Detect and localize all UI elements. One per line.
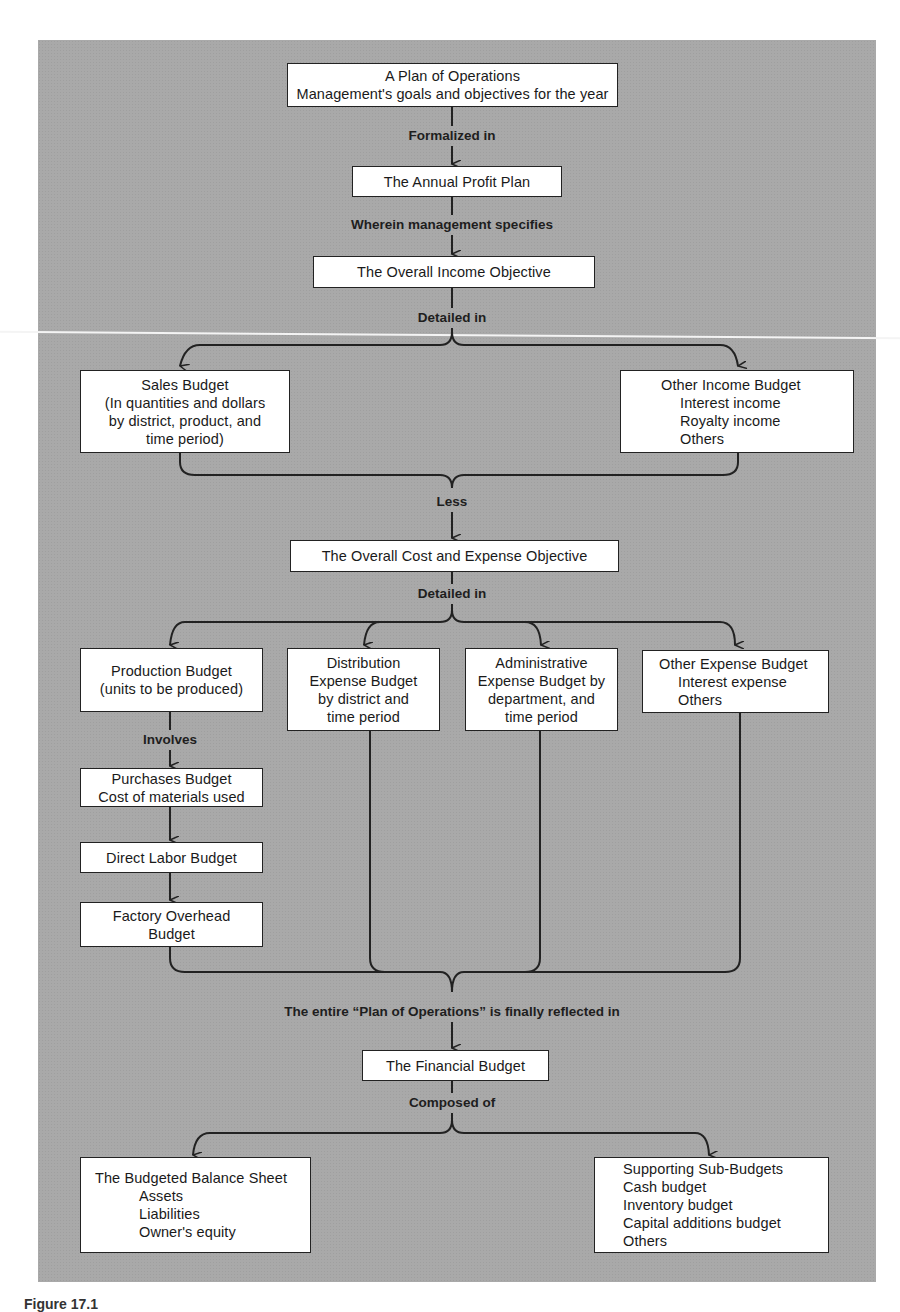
node-other-expense-budget: Other Expense Budget Interest expense Ot… [642, 650, 829, 713]
node-title: Supporting Sub-Budgets [623, 1160, 822, 1178]
node-line: (In quantities and dollars [87, 394, 283, 412]
node-production-budget: Production Budget (units to be produced) [80, 648, 263, 712]
node-direct-labor-budget: Direct Labor Budget [80, 842, 263, 873]
node-supporting-sub-budgets: Supporting Sub-Budgets Cash budget Inven… [594, 1157, 829, 1253]
node-overall-cost-expense-objective: The Overall Cost and Expense Objective [290, 540, 619, 572]
node-line: Others [661, 430, 847, 448]
node-title: The Budgeted Balance Sheet [95, 1169, 304, 1187]
node-line: by district and [294, 690, 433, 708]
node-line: time period [472, 708, 611, 726]
edge-label-composed-of: Composed of [409, 1095, 495, 1110]
node-administrative-expense-budget: Administrative Expense Budget by departm… [465, 648, 618, 731]
node-line: time period [294, 708, 433, 726]
node-title: Administrative [472, 654, 611, 672]
node-budgeted-balance-sheet: The Budgeted Balance Sheet Assets Liabil… [80, 1157, 311, 1253]
edge-label-formalized-in: Formalized in [408, 128, 495, 143]
node-line: Interest expense [659, 673, 822, 691]
node-title: Purchases Budget [87, 770, 256, 788]
node-line: Owner's equity [95, 1223, 304, 1241]
node-line: Expense Budget by [472, 672, 611, 690]
node-line: (units to be produced) [87, 680, 256, 698]
node-title: A Plan of Operations [294, 67, 611, 85]
node-line: Others [659, 691, 822, 709]
node-title: Factory Overhead [87, 907, 256, 925]
node-title: Sales Budget [87, 376, 283, 394]
node-subtitle: Management's goals and objectives for th… [294, 85, 611, 103]
node-title: The Annual Profit Plan [359, 173, 555, 191]
node-line: department, and [472, 690, 611, 708]
node-line: Royalty income [661, 412, 847, 430]
node-purchases-budget: Purchases Budget Cost of materials used [80, 768, 263, 807]
edge-label-detailed-in-2: Detailed in [418, 586, 486, 601]
edge-label-wherein: Wherein management specifies [351, 217, 553, 232]
node-line: Inventory budget [623, 1196, 822, 1214]
node-title: Production Budget [87, 662, 256, 680]
node-line: Interest income [661, 394, 847, 412]
node-title: The Overall Cost and Expense Objective [297, 547, 612, 565]
node-line: Budget [87, 925, 256, 943]
node-plan-of-operations: A Plan of Operations Management's goals … [287, 63, 618, 107]
node-line: Cash budget [623, 1178, 822, 1196]
node-financial-budget: The Financial Budget [362, 1050, 549, 1081]
node-other-income-budget: Other Income Budget Interest income Roya… [620, 370, 854, 453]
node-line: Liabilities [95, 1205, 304, 1223]
node-title: The Overall Income Objective [320, 263, 588, 281]
node-factory-overhead-budget: Factory Overhead Budget [80, 902, 263, 947]
node-line: Expense Budget [294, 672, 433, 690]
edge-label-less: Less [437, 494, 468, 509]
node-title: Other Expense Budget [659, 655, 822, 673]
node-title: Direct Labor Budget [87, 849, 256, 867]
edge-label-involves: Involves [143, 732, 197, 747]
node-sales-budget: Sales Budget (In quantities and dollars … [80, 370, 290, 453]
node-distribution-expense-budget: Distribution Expense Budget by district … [287, 648, 440, 731]
node-overall-income-objective: The Overall Income Objective [313, 256, 595, 288]
node-line: Others [623, 1232, 822, 1250]
node-line: by district, product, and [87, 412, 283, 430]
edge-label-reflected-in: The entire “Plan of Operations” is final… [284, 1004, 619, 1019]
node-line: Cost of materials used [87, 788, 256, 806]
node-line: time period) [87, 430, 283, 448]
node-annual-profit-plan: The Annual Profit Plan [352, 166, 562, 197]
node-title: Other Income Budget [661, 376, 847, 394]
edge-label-detailed-in-1: Detailed in [418, 310, 486, 325]
node-line: Capital additions budget [623, 1214, 822, 1232]
node-line: Assets [95, 1187, 304, 1205]
node-title: Distribution [294, 654, 433, 672]
node-title: The Financial Budget [369, 1057, 542, 1075]
figure-caption: Figure 17.1 [24, 1296, 98, 1312]
